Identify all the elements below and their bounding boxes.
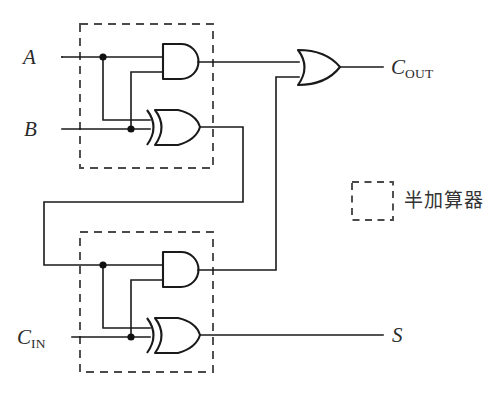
junction-b-top [127, 125, 134, 132]
and-gate-bottom [163, 252, 199, 287]
label-input-a-text: A [23, 45, 36, 69]
wire-a-branch-to-xor [103, 57, 150, 120]
junction-cin [127, 333, 134, 340]
xor-gate-top-arc [147, 110, 154, 145]
label-output-s: S [392, 325, 403, 346]
label-output-cout-base: C [391, 55, 405, 79]
label-input-b: B [24, 119, 37, 140]
junction-sum1-bottom [99, 261, 106, 268]
label-output-s-text: S [392, 323, 403, 347]
label-input-b-text: B [24, 117, 37, 141]
full-adder-diagram: A B CIN COUT S 半加算器 [0, 0, 501, 397]
legend-label-text: 半加算器 [404, 189, 484, 211]
junction-a-top [99, 53, 106, 60]
label-input-cin-base: C [17, 325, 31, 349]
half-adder-box-top [80, 24, 213, 168]
or-gate-carry [298, 50, 340, 85]
xor-gate-top [155, 110, 200, 145]
wire-sum1-branch-to-xor-bottom [103, 265, 150, 328]
half-adder-box-bottom [80, 232, 213, 372]
label-input-cin-sub: IN [31, 336, 46, 351]
label-input-a: A [23, 47, 36, 68]
and-gate-top [163, 44, 198, 79]
xor-gate-bottom-arc [147, 318, 154, 353]
xor-gate-bottom [155, 318, 200, 353]
label-output-cout: COUT [391, 57, 433, 78]
label-output-cout-sub: OUT [405, 66, 433, 81]
legend-swatch [352, 182, 393, 220]
label-input-cin: CIN [17, 327, 46, 348]
legend-label: 半加算器 [404, 191, 484, 210]
